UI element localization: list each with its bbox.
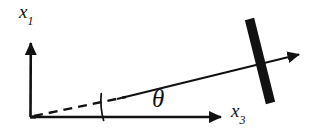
diagram-svg — [0, 0, 328, 138]
theta-angle-label: θ — [152, 86, 164, 111]
figure-canvas: x1 x3 θ — [0, 0, 328, 138]
x3-subscript: 3 — [239, 113, 245, 127]
x1-axis-label: x1 — [19, 2, 33, 24]
x3-axis-label: x3 — [231, 101, 245, 123]
rotated-plate — [250, 19, 271, 103]
x1-subscript: 1 — [27, 14, 33, 28]
dashed-reference-ray — [34, 97, 126, 116]
